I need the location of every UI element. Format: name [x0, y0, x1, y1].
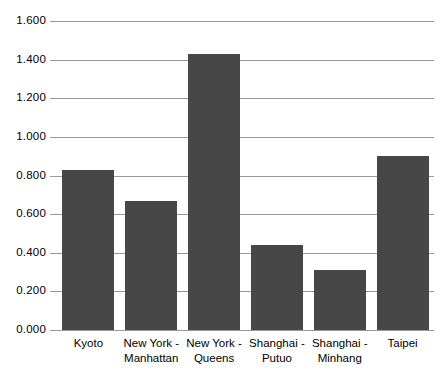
bars-layer: [57, 21, 434, 330]
y-axis-tick-label: 0.200: [16, 286, 46, 298]
x-axis-tick-label: Shanghai - Minhang: [308, 336, 371, 366]
bar[interactable]: [251, 245, 303, 330]
bar[interactable]: [125, 201, 177, 330]
y-axis-tick-label: 1.600: [16, 15, 46, 27]
plot-area: 0.0000.2000.4000.6000.8001.0001.2001.400…: [57, 21, 434, 330]
bar[interactable]: [188, 54, 240, 330]
y-axis-tick-label: 0.000: [16, 324, 46, 336]
bar-chart: 0.0000.2000.4000.6000.8001.0001.2001.400…: [0, 0, 448, 388]
bar[interactable]: [377, 156, 429, 330]
y-axis-tick-label: 0.800: [16, 170, 46, 182]
y-axis-tick-label: 0.600: [16, 208, 46, 220]
y-axis-tick: [50, 21, 57, 22]
x-axis-tick-label: Kyoto: [57, 336, 120, 351]
y-axis-tick: [50, 60, 57, 61]
x-axis-tick-label: New York - Queens: [183, 336, 246, 366]
bar[interactable]: [62, 170, 114, 330]
x-axis-tick-label: Taipei: [371, 336, 434, 351]
y-axis-tick: [50, 214, 57, 215]
gridline: [57, 330, 434, 331]
y-axis-tick: [50, 330, 57, 331]
y-axis-tick: [50, 98, 57, 99]
bar[interactable]: [314, 270, 366, 330]
y-axis-tick-label: 1.200: [16, 93, 46, 105]
x-axis-tick-label: Shanghai - Putuo: [246, 336, 309, 366]
y-axis-tick: [50, 291, 57, 292]
x-axis-tick-label: New York - Manhattan: [120, 336, 183, 366]
y-axis-tick: [50, 176, 57, 177]
x-axis-labels: KyotoNew York - ManhattanNew York - Quee…: [57, 336, 434, 382]
y-axis-tick: [50, 137, 57, 138]
y-axis-tick: [50, 253, 57, 254]
y-axis-tick-label: 1.400: [16, 54, 46, 66]
y-axis-tick-label: 0.400: [16, 247, 46, 259]
y-axis-tick-label: 1.000: [16, 131, 46, 143]
